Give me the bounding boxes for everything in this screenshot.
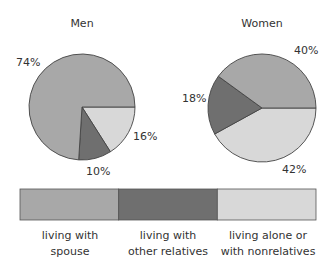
legend-label-line: living alone or bbox=[221, 228, 316, 244]
women-spouse-percent: 40% bbox=[294, 45, 318, 57]
men-relatives-percent: 10% bbox=[86, 166, 110, 178]
legend-swatch bbox=[20, 189, 119, 220]
men-pie-chart bbox=[29, 54, 135, 160]
legend-swatch bbox=[217, 189, 316, 220]
legend-label-spouse: living with spouse bbox=[42, 228, 98, 260]
men-spouse-percent: 74% bbox=[16, 57, 40, 69]
women-alone-percent: 42% bbox=[282, 164, 306, 176]
legend-bar bbox=[20, 189, 316, 220]
legend-swatch bbox=[119, 189, 218, 220]
women-relatives-percent: 18% bbox=[182, 93, 206, 105]
legend-label-line: with nonrelatives bbox=[221, 244, 316, 260]
legend-label-line: other relatives bbox=[128, 244, 208, 260]
legend-label-line: spouse bbox=[42, 244, 98, 260]
men-chart-title: Men bbox=[70, 17, 93, 30]
women-chart-title: Women bbox=[241, 17, 282, 30]
legend-label-other-relatives: living with other relatives bbox=[128, 228, 208, 260]
legend-label-line: living with bbox=[128, 228, 208, 244]
legend-label-alone: living alone or with nonrelatives bbox=[221, 228, 316, 260]
women-pie-chart bbox=[208, 54, 316, 162]
legend-label-line: living with bbox=[42, 228, 98, 244]
men-alone-percent: 16% bbox=[133, 131, 157, 143]
